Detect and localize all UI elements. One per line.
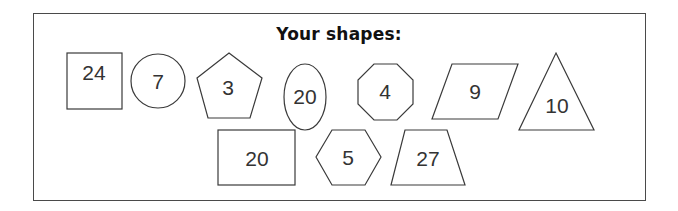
shape-label: 24: [82, 61, 106, 84]
shape-pentagon: 3: [197, 53, 262, 118]
shape-circle: 7: [131, 54, 185, 108]
shape-square: 24: [67, 53, 122, 109]
shape-trapezoid: 27: [391, 130, 465, 185]
shape-hexagon: 5: [316, 130, 381, 185]
shape-label: 27: [416, 147, 439, 170]
shape-label: 7: [152, 70, 164, 93]
shape-label: 20: [293, 85, 316, 108]
shape-label: 9: [469, 80, 481, 103]
shape-rectangle: 20: [218, 130, 295, 185]
shape-octagon: 4: [358, 64, 413, 120]
shapes-canvas: 24 7 3 20 4 9 10 20 5 27: [0, 0, 678, 211]
shape-label: 20: [245, 147, 268, 170]
shape-ellipse: 20: [284, 64, 326, 130]
shape-label: 10: [545, 94, 568, 117]
shape-parallelogram: 9: [432, 64, 518, 119]
shape-triangle: 10: [519, 53, 594, 130]
shape-label: 3: [222, 76, 234, 99]
shape-label: 5: [342, 146, 354, 169]
shape-label: 4: [379, 80, 391, 103]
